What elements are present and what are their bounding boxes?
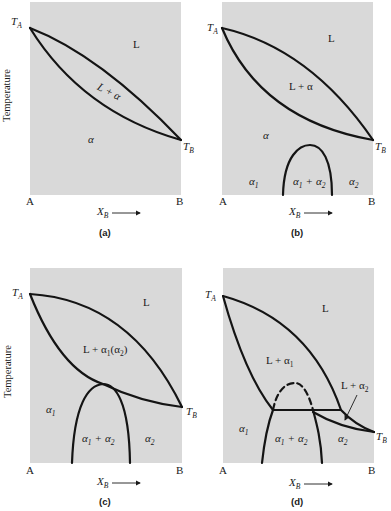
x-end-label: B: [368, 195, 375, 207]
x-start-label: A: [26, 464, 34, 476]
panel-a: L L + α α TA TB Temperature A B XB (a): [1, 2, 194, 238]
panel-b: L L + α α α1 α1+α2 α2 TA TB A B XB (b): [207, 2, 386, 238]
panel-caption: (c): [99, 496, 111, 507]
panel-d: L L + α1 L + α2 α1 α1+α2 α2 TA TB A B XB…: [205, 268, 387, 507]
region-liquid: L: [328, 32, 335, 44]
panel-caption: (a): [99, 227, 111, 238]
ta-label: TA: [205, 288, 216, 303]
x-start-label: A: [219, 464, 227, 476]
x-end-label: B: [176, 195, 183, 207]
tb-label: TB: [375, 140, 386, 155]
ta-label: TA: [11, 15, 22, 30]
plot-area: [30, 2, 181, 195]
x-end-label: B: [368, 464, 375, 476]
region-liquid: L: [143, 296, 150, 308]
panel-caption: (b): [291, 227, 303, 238]
panel-c: L L + α1(α2) α1 α1+α2 α2 TA TB Temperatu…: [2, 268, 197, 507]
x-end-label: B: [176, 464, 183, 476]
x-axis-label: XB: [96, 475, 109, 490]
tb-label: TB: [186, 405, 197, 420]
x-axis-label: XB: [288, 205, 301, 220]
region-liquid: L: [322, 302, 329, 314]
x-axis-label: XB: [288, 476, 301, 491]
region-alpha: α: [263, 129, 269, 141]
phase-diagram-figure: L L + α α TA TB Temperature A B XB (a) L…: [0, 0, 391, 511]
plot-area: [222, 2, 373, 195]
x-start-label: A: [219, 195, 227, 207]
panel-caption: (d): [291, 496, 303, 507]
tb-label: TB: [376, 430, 387, 445]
x-axis-label: XB: [96, 205, 109, 220]
tb-label: TB: [183, 140, 194, 155]
y-axis-label: Temperature: [1, 69, 12, 122]
ta-label: TA: [207, 21, 218, 36]
ta-label: TA: [12, 286, 23, 301]
region-liquid-plus-alpha: L + α: [289, 80, 313, 92]
region-liquid: L: [133, 38, 140, 50]
x-start-label: A: [26, 195, 34, 207]
y-axis-label: Temperature: [2, 345, 13, 398]
region-alpha: α: [88, 133, 94, 145]
